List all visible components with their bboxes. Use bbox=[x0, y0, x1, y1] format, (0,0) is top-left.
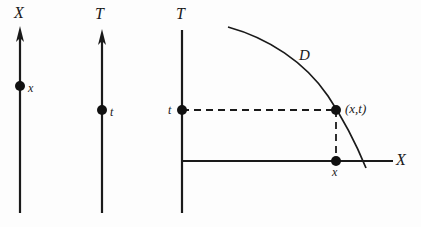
space-axis-point-x bbox=[15, 81, 25, 91]
combined-space-point-label: x bbox=[332, 166, 337, 178]
curve-D bbox=[228, 27, 366, 168]
combined-point-t bbox=[177, 105, 187, 115]
time-axis-label: T bbox=[95, 6, 104, 22]
space-axis-label: X bbox=[14, 5, 24, 21]
space-axis-point-label: x bbox=[28, 82, 33, 94]
figure-root: X x T t T X t x D (x,t) bbox=[0, 0, 421, 227]
panel-combined-diagram bbox=[177, 27, 393, 213]
combined-point-xt bbox=[331, 105, 341, 115]
panel-time-axis bbox=[97, 29, 107, 213]
time-axis-point-t bbox=[97, 105, 107, 115]
panel-space-axis bbox=[15, 26, 25, 213]
combined-space-axis-label: X bbox=[396, 152, 406, 168]
coordinate-pair-label: (x,t) bbox=[345, 102, 366, 115]
combined-time-axis-label: T bbox=[176, 6, 185, 22]
curve-label-D: D bbox=[299, 48, 310, 63]
time-axis-point-label: t bbox=[110, 106, 113, 118]
combined-time-point-label: t bbox=[168, 104, 171, 116]
